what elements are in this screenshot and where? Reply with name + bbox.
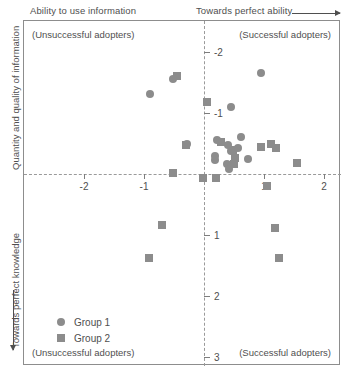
- data-point-group-2: [229, 146, 237, 154]
- data-point-group-1: [146, 90, 154, 98]
- y-tick: [204, 235, 210, 236]
- data-point-group-2: [169, 169, 177, 177]
- data-point-group-2: [199, 174, 207, 182]
- x-tick: [144, 174, 145, 179]
- y-tick-label: 1: [214, 230, 220, 241]
- y-tick: [204, 52, 210, 53]
- data-point-group-1: [227, 103, 235, 111]
- quadrant-label-bottom-right: (Successful adopters): [239, 347, 331, 358]
- arrow-right-icon: [292, 13, 340, 14]
- quadrant-label-top-right: (Successful adopters): [239, 29, 331, 40]
- quadrant-label-bottom-left: (Unsuccessful adopters): [32, 347, 134, 358]
- circle-marker-icon: [57, 318, 65, 326]
- y-tick-label: 3: [214, 352, 220, 363]
- legend-item: Group 1: [57, 314, 110, 330]
- horizontal-zero-axis: [24, 174, 341, 175]
- x-tick-label: -2: [80, 181, 89, 192]
- data-point-group-2: [158, 221, 166, 229]
- y-tick-label: -1: [214, 108, 223, 119]
- data-point-group-2: [230, 160, 238, 168]
- caption-ability-to-use-information: Ability to use information: [30, 5, 136, 16]
- quadrant-label-top-left: (Unsuccessful adopters): [32, 29, 134, 40]
- data-point-group-2: [272, 144, 280, 152]
- axis-label-quantity-and-quality: Quantity and quality of information: [10, 26, 21, 170]
- data-point-group-2: [275, 254, 283, 262]
- legend-label: Group 2: [74, 333, 110, 344]
- arrow-down-icon: [13, 290, 14, 350]
- x-tick-label: -1: [140, 181, 149, 192]
- y-tick-label: 2: [214, 291, 220, 302]
- data-point-group-2: [217, 138, 225, 146]
- axis-label-towards-perfect-knowledge: Towards perfect knowledge: [10, 233, 21, 348]
- scatter-plot-area: (Unsuccessful adopters) (Successful adop…: [23, 20, 340, 365]
- caption-towards-perfect-ability: Towards perfect ability: [196, 5, 292, 16]
- y-tick: [204, 113, 210, 114]
- x-tick: [264, 174, 265, 179]
- vertical-zero-axis: [204, 21, 205, 366]
- data-point-group-1: [244, 155, 252, 163]
- data-point-group-2: [203, 98, 211, 106]
- legend-label: Group 1: [74, 317, 110, 328]
- data-point-group-2: [145, 254, 153, 262]
- y-tick: [204, 296, 210, 297]
- data-point-group-1: [257, 69, 265, 77]
- x-tick: [84, 174, 85, 179]
- chart-legend: Group 1Group 2: [57, 314, 110, 346]
- x-tick-label: 2: [321, 181, 327, 192]
- data-point-group-2: [293, 159, 301, 167]
- data-point-group-2: [173, 72, 181, 80]
- data-point-group-2: [182, 141, 190, 149]
- data-point-group-2: [263, 182, 271, 190]
- data-point-group-2: [212, 174, 220, 182]
- y-tick: [204, 357, 210, 358]
- legend-item: Group 2: [57, 330, 110, 346]
- data-point-group-2: [271, 224, 279, 232]
- square-marker-icon: [57, 334, 65, 342]
- data-point-group-2: [257, 143, 265, 151]
- data-point-group-1: [237, 133, 245, 141]
- x-tick: [324, 174, 325, 179]
- y-tick-label: -2: [214, 47, 223, 58]
